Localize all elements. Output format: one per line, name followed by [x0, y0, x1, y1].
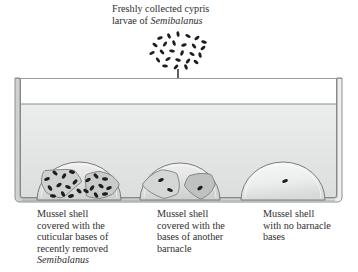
larva-mark: [179, 50, 184, 57]
larva-mark: [162, 41, 168, 47]
larva-mark: [189, 51, 196, 56]
larva-mark: [165, 56, 172, 61]
larva-mark: [193, 59, 199, 65]
mussel-shells-group: [37, 162, 325, 200]
larva-mark: [181, 43, 187, 48]
larva-mark: [200, 45, 206, 51]
caption-shell-1: Mussel shell covered with the cuticular …: [37, 208, 141, 266]
larva-mark: [194, 35, 200, 41]
larva-mark: [172, 40, 177, 46]
larva-mark: [166, 33, 171, 40]
larva-mark: [159, 49, 165, 55]
caption-1-line4: recently removed: [37, 243, 108, 254]
larva-mark: [191, 43, 197, 49]
larva-mark: [155, 57, 161, 63]
caption-2-line2: covered with the: [157, 220, 225, 231]
caption-2-line4: barnacle: [157, 243, 192, 254]
top-label-line1: Freshly collected cypris: [112, 3, 209, 14]
larva-mark: [162, 64, 168, 67]
larva-mark: [152, 42, 158, 48]
larva-mark: [157, 36, 163, 41]
caption-2-line1: Mussel shell: [157, 208, 208, 219]
caption-1-species: Semibalanus: [37, 254, 89, 265]
larva-mark: [176, 31, 180, 37]
caption-2-line3: bases of another: [157, 231, 223, 242]
figure-root: Freshly collected cypris larvae of Semib…: [0, 0, 358, 272]
larva-mark: [169, 49, 175, 53]
caption-1-line1: Mussel shell: [37, 208, 88, 219]
caption-1-line2: covered with the: [37, 220, 105, 231]
caption-shell-2: Mussel shell covered with the bases of a…: [157, 208, 255, 254]
top-label: Freshly collected cypris larvae of Semib…: [112, 3, 262, 26]
top-label-species: Semibalanus: [150, 15, 202, 26]
caption-3-line2: with no barnacle: [263, 220, 331, 231]
larva-mark: [183, 64, 188, 71]
caption-shell-3: Mussel shell with no barnacle bases: [263, 208, 358, 243]
larva-mark: [201, 40, 207, 44]
larva-mark: [185, 33, 192, 38]
caption-1-line3: cuticular bases of: [37, 231, 108, 242]
cypris-larvae-cluster: [149, 31, 207, 70]
top-label-line2-prefix: larvae of: [112, 15, 150, 26]
larva-mark: [175, 58, 181, 63]
tank-air-region: [21, 79, 337, 105]
caption-3-line3: bases: [263, 231, 285, 242]
larva-mark: [185, 58, 191, 64]
larva-mark: [198, 52, 202, 58]
larva-mark: [149, 50, 156, 55]
caption-3-line1: Mussel shell: [263, 208, 314, 219]
